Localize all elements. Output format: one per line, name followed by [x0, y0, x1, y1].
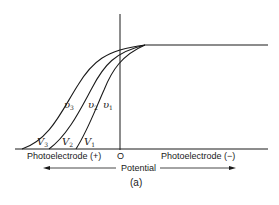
figure-caption: (a) — [130, 178, 142, 188]
photocurrent-diagram — [0, 0, 279, 205]
origin-label: O — [117, 152, 124, 161]
potential-axis-title: Potential — [121, 164, 156, 173]
curve-v2 — [49, 45, 145, 149]
curve-label-nu2: υ2 — [88, 100, 98, 111]
onset-label-v1: V1 — [84, 137, 95, 148]
left-axis-label: Photoelectrode (+) — [27, 152, 101, 161]
arrowhead-left-icon — [43, 166, 50, 170]
arrowhead-right-icon — [229, 166, 236, 170]
curve-label-nu1: υ1 — [103, 100, 113, 111]
curve-v1 — [76, 45, 145, 149]
curve-v3 — [22, 45, 145, 149]
onset-label-v3: V3 — [37, 137, 48, 148]
curve-label-nu3: υ3 — [64, 100, 74, 111]
onset-label-v2: V2 — [62, 137, 73, 148]
right-axis-label: Photoelectrode (−) — [161, 152, 235, 161]
